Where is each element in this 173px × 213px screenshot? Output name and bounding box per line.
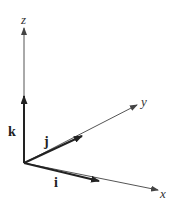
j-vector-label: j xyxy=(43,134,49,149)
y-axis-label: y xyxy=(139,94,147,109)
i-vector-label: i xyxy=(54,175,58,190)
coordinate-diagram: z y x k j i xyxy=(0,0,173,213)
j-vector-arrow xyxy=(24,136,82,163)
i-vector-arrow xyxy=(24,163,99,181)
x-axis-label: x xyxy=(159,186,166,201)
k-vector-label: k xyxy=(8,124,16,139)
z-axis-label: z xyxy=(20,12,26,27)
